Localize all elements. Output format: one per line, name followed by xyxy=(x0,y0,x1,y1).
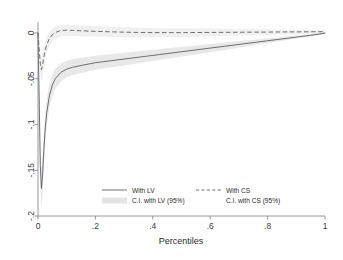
legend-label-with-lv: With LV xyxy=(132,187,155,194)
x-axis-ticks xyxy=(38,216,325,220)
x-axis-tick-label: 0 xyxy=(36,221,41,231)
chart-plot-area: 0-.05-.1-.15-.2 0.2.4.6.81 Percentiles W… xyxy=(0,0,343,260)
y-axis-tick-label: -.1 xyxy=(26,119,36,129)
y-tick-labels: 0-.05-.1-.15-.2 xyxy=(26,30,36,221)
y-axis-tick-label: 0 xyxy=(26,30,36,35)
ci-band-with-lv xyxy=(38,32,325,209)
legend-label-ci-with-lv: C.I. with LV (95%) xyxy=(132,197,185,205)
chart-legend: With LV With CS C.I. with LV (95%) C.I. … xyxy=(102,187,280,206)
x-axis-tick-label: .8 xyxy=(264,221,271,231)
y-axis-tick-label: -.2 xyxy=(26,211,36,221)
ci-band-group xyxy=(38,25,325,209)
y-axis-tick-label: -.05 xyxy=(26,71,36,86)
legend-label-ci-with-cs: C.I. with CS (95%) xyxy=(226,197,280,205)
x-axis-title: Percentiles xyxy=(159,236,204,246)
legend-label-with-cs: With CS xyxy=(226,187,251,194)
x-axis-tick-label: .6 xyxy=(207,221,214,231)
y-axis-tick-label: -.15 xyxy=(26,163,36,178)
x-tick-labels: 0.2.4.6.81 xyxy=(36,221,328,231)
x-axis-tick-label: 1 xyxy=(323,221,328,231)
x-axis-tick-label: .2 xyxy=(92,221,99,231)
chart-container: 0-.05-.1-.15-.2 0.2.4.6.81 Percentiles W… xyxy=(0,0,343,260)
legend-swatch-ci-with-cs xyxy=(196,198,221,204)
legend-swatch-ci-with-lv xyxy=(102,198,127,204)
x-axis-tick-label: .4 xyxy=(149,221,156,231)
